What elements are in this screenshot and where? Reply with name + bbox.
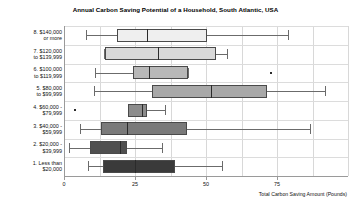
box-iqr bbox=[105, 47, 216, 60]
median-line bbox=[158, 47, 159, 60]
box-iqr bbox=[103, 160, 175, 173]
boxplot-row bbox=[64, 64, 348, 83]
x-axis-tick-label: 50 bbox=[194, 181, 218, 187]
whisker-upper bbox=[187, 129, 310, 130]
y-axis-label: 7. $120,000 to $139,999 bbox=[4, 48, 62, 60]
y-axis-label: 6. $100,000 to $119,999 bbox=[4, 66, 62, 78]
box-iqr bbox=[152, 85, 267, 98]
whisker-lower bbox=[80, 129, 101, 130]
whisker-upper bbox=[127, 148, 162, 149]
whisker-cap-upper bbox=[325, 86, 326, 96]
plot-area bbox=[64, 26, 348, 176]
median-line bbox=[127, 122, 128, 135]
x-axis-tick-label: 25 bbox=[123, 181, 147, 187]
box-iqr bbox=[90, 141, 127, 154]
whisker-cap-upper bbox=[222, 161, 223, 171]
box-iqr bbox=[101, 122, 187, 135]
x-axis-tick bbox=[135, 177, 136, 180]
x-axis-title: Total Carbon Saving Amount (Pounds) bbox=[259, 191, 347, 197]
whisker-lower bbox=[69, 148, 90, 149]
x-axis-tick bbox=[64, 177, 65, 180]
whisker-cap-upper bbox=[288, 30, 289, 40]
whisker-cap-lower bbox=[88, 161, 89, 171]
whisker-cap-lower bbox=[86, 30, 87, 40]
boxplot-row bbox=[64, 45, 348, 64]
whisker-cap-upper bbox=[188, 68, 189, 78]
whisker-cap-upper bbox=[162, 143, 163, 153]
median-line bbox=[120, 141, 121, 154]
whisker-upper bbox=[147, 110, 165, 111]
boxplot-row bbox=[64, 82, 348, 101]
y-axis-label: 2. $20,000 - $39,999 bbox=[4, 141, 62, 153]
whisker-cap-lower bbox=[69, 143, 70, 153]
y-axis-label: 4. $60,000 - $79,999 bbox=[4, 104, 62, 116]
boxplot-chart: Annual Carbon Saving Potential of a Hous… bbox=[0, 0, 351, 207]
boxplot-row bbox=[64, 157, 348, 176]
whisker-lower bbox=[94, 91, 152, 92]
median-line bbox=[149, 66, 150, 79]
median-line bbox=[135, 160, 136, 173]
x-axis-tick bbox=[277, 177, 278, 180]
whisker-lower bbox=[95, 73, 133, 74]
y-axis-label: 8. $140,000 or more bbox=[4, 29, 62, 41]
median-line bbox=[147, 29, 148, 42]
whisker-cap-upper bbox=[310, 124, 311, 134]
whisker-lower bbox=[88, 166, 103, 167]
chart-title: Annual Carbon Saving Potential of a Hous… bbox=[0, 6, 351, 13]
x-axis-tick-label: 0 bbox=[52, 181, 76, 187]
boxplot-row bbox=[64, 101, 348, 120]
y-axis-labels: 8. $140,000 or more7. $120,000 to $139,9… bbox=[0, 26, 62, 176]
box-iqr bbox=[133, 66, 188, 79]
boxplot-row bbox=[64, 139, 348, 158]
whisker-upper bbox=[207, 35, 288, 36]
y-axis-line bbox=[64, 26, 65, 176]
median-line bbox=[211, 85, 212, 98]
box-iqr bbox=[128, 104, 147, 117]
y-axis-label: 5. $80,000 to $99,999 bbox=[4, 85, 62, 97]
boxplot-row bbox=[64, 120, 348, 139]
median-line bbox=[142, 104, 143, 117]
y-axis-label: 3. $40,000 - $59,999 bbox=[4, 123, 62, 135]
whisker-cap-lower bbox=[80, 124, 81, 134]
x-axis-tick bbox=[206, 177, 207, 180]
x-axis-tick-label: 75 bbox=[265, 181, 289, 187]
boxplot-row bbox=[64, 26, 348, 45]
whisker-cap-lower bbox=[94, 86, 95, 96]
gridline-vertical bbox=[348, 26, 349, 176]
whisker-upper bbox=[267, 91, 325, 92]
box-iqr bbox=[117, 29, 207, 42]
y-axis-label: 1. Less than $20,000 bbox=[4, 160, 62, 172]
whisker-upper bbox=[216, 54, 227, 55]
whisker-cap-upper bbox=[165, 105, 166, 115]
whisker-lower bbox=[86, 35, 117, 36]
outlier-point bbox=[74, 109, 76, 111]
outlier-point bbox=[270, 72, 272, 74]
whisker-cap-upper bbox=[227, 49, 228, 59]
whisker-cap-lower bbox=[95, 68, 96, 78]
whisker-upper bbox=[175, 166, 222, 167]
